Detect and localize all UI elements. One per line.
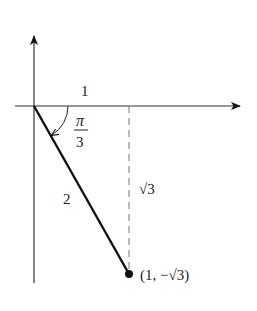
point-label: (1, −√3) bbox=[140, 267, 189, 284]
diagram-canvas: 1 π 3 2 √3 (1, −√3) bbox=[0, 0, 257, 311]
opposite-label: √3 bbox=[139, 181, 155, 197]
hypotenuse-label: 2 bbox=[63, 191, 71, 207]
angle-denominator-label: 3 bbox=[76, 134, 84, 150]
hypotenuse-line bbox=[34, 106, 129, 274]
angle-numerator-label: π bbox=[76, 112, 85, 129]
adjacent-label: 1 bbox=[81, 83, 89, 99]
angle-arc bbox=[52, 106, 68, 135]
point-marker bbox=[125, 270, 133, 278]
